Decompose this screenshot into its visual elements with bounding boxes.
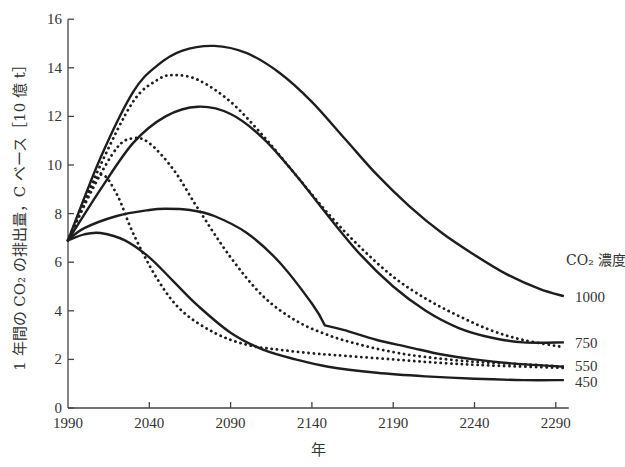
curve-450-solid	[68, 233, 564, 381]
x-tick-label: 1990	[53, 415, 83, 431]
curve-550-dotted	[68, 175, 564, 368]
x-axis-title: 年	[311, 441, 326, 459]
x-tick-label: 2140	[297, 415, 327, 431]
x-tick-label: 2190	[378, 415, 408, 431]
x-tick-label: 2290	[541, 415, 571, 431]
x-tick-label: 2240	[460, 415, 490, 431]
curve-1000-solid	[68, 46, 564, 296]
legend-label-750: 750	[575, 335, 598, 351]
y-tick-label: 8	[55, 206, 63, 222]
legend-title: CO₂ 濃度	[566, 252, 625, 268]
x-tick-label: 2090	[216, 415, 246, 431]
y-tick-label: 14	[47, 60, 63, 76]
legend: CO₂ 濃度 1000750550450	[566, 252, 625, 390]
emission-curves	[68, 46, 564, 380]
y-axis-title: 1 年間の CO₂ の排出量，C ベース［10 億 t］	[11, 57, 29, 371]
y-axis-ticks: 0246810121416	[47, 11, 74, 416]
legend-label-550: 550	[575, 358, 598, 374]
y-tick-label: 4	[55, 303, 63, 319]
emissions-chart: 0246810121416 19902040209021402190224022…	[0, 0, 625, 467]
legend-label-450: 450	[575, 374, 598, 390]
y-tick-label: 6	[55, 254, 63, 270]
y-tick-label: 10	[47, 157, 62, 173]
y-tick-label: 2	[55, 351, 63, 367]
x-axis-ticks: 1990204020902140219022402290	[53, 402, 571, 431]
legend-label-1000: 1000	[575, 289, 605, 305]
curve-550-solid	[68, 209, 564, 367]
y-tick-label: 12	[47, 108, 62, 124]
y-tick-label: 16	[47, 11, 63, 27]
y-tick-label: 0	[55, 400, 63, 416]
x-tick-label: 2040	[134, 415, 164, 431]
